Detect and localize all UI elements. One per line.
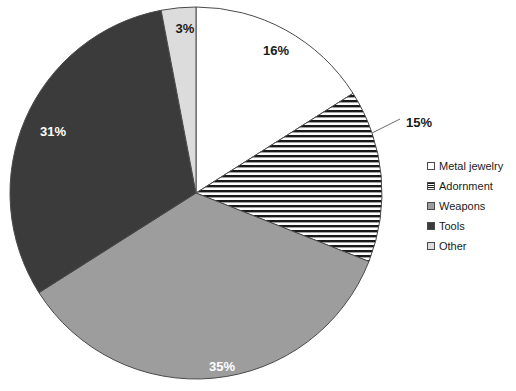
legend-item-label: Tools: [439, 216, 465, 236]
legend-item-label: Other: [439, 236, 467, 256]
legend-item-weapons[interactable]: Weapons: [427, 196, 516, 216]
chart-legend: Metal jewelry Adornment Weapons Tools Ot…: [427, 156, 516, 256]
legend-item-adornment[interactable]: Adornment: [427, 176, 516, 196]
legend-item-label: Weapons: [439, 196, 485, 216]
leader-line-group: [372, 119, 400, 133]
legend-item-label: Metal jewelry: [439, 156, 503, 176]
leader-line: [372, 119, 400, 133]
slice-data-label: 35%: [209, 359, 235, 374]
legend-item-tools[interactable]: Tools: [427, 216, 516, 236]
slice-data-label: 16%: [263, 43, 289, 58]
light-gray-square-icon: [427, 242, 435, 250]
pie-chart-figure: 16%15%35%31%3% Metal jewelry Adornment W…: [0, 0, 516, 391]
legend-item-other[interactable]: Other: [427, 236, 516, 256]
slice-data-label: 31%: [40, 124, 66, 139]
legend-item-metal-jewelry[interactable]: Metal jewelry: [427, 156, 516, 176]
gray-square-icon: [427, 202, 435, 210]
slice-data-label: 3%: [176, 21, 195, 36]
legend-item-label: Adornment: [439, 176, 493, 196]
pie-slice-group: [10, 7, 382, 379]
slice-data-label: 15%: [406, 115, 432, 130]
dark-square-icon: [427, 222, 435, 230]
white-square-icon: [427, 162, 435, 170]
striped-square-icon: [427, 182, 435, 190]
